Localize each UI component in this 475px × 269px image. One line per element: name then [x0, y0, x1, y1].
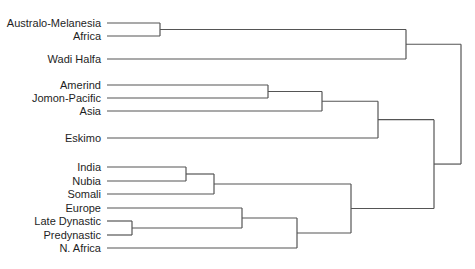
dendrogram-tree: [0, 0, 475, 269]
